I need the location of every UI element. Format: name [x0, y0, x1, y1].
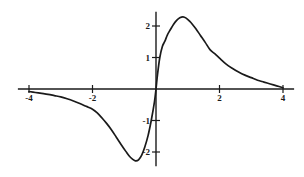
- plot-canvas: [0, 0, 304, 177]
- x-tick-label-3: 4: [281, 94, 286, 103]
- x-tick-label-2: 2: [217, 94, 222, 103]
- y-tick-label-0: -2: [143, 148, 151, 157]
- chart-figure: -4-224 -2-112: [0, 0, 304, 177]
- y-tick-label-1: -1: [143, 116, 151, 125]
- y-tick-label-3: 2: [146, 22, 151, 31]
- x-tick-label-1: -2: [89, 94, 97, 103]
- y-tick-label-2: 1: [146, 53, 151, 62]
- x-tick-label-0: -4: [25, 94, 33, 103]
